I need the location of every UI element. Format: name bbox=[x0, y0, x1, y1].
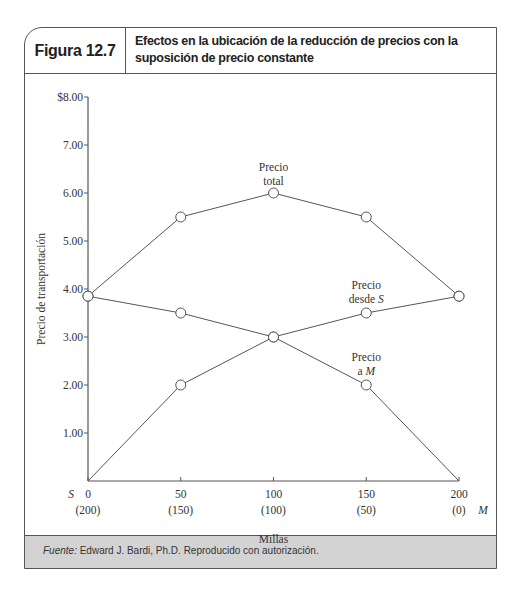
series-line bbox=[88, 296, 459, 481]
data-point-marker bbox=[361, 380, 371, 390]
data-point-marker bbox=[83, 291, 93, 301]
x-tick-sublabel: (200) bbox=[76, 504, 101, 517]
y-tick-label: 7.00 bbox=[63, 139, 83, 151]
series-label: Preciototal bbox=[259, 161, 289, 187]
x-tick-label: 50 bbox=[175, 488, 187, 500]
y-tick-label: 6.00 bbox=[63, 187, 83, 199]
data-point-marker bbox=[176, 308, 186, 318]
series-label-line: Precio bbox=[352, 279, 382, 291]
series-label: Preciodesde S bbox=[349, 279, 384, 305]
series-label-italic: S bbox=[378, 293, 384, 305]
y-axis-title: Precio de transportación bbox=[35, 233, 48, 345]
x-axis-title: Millas bbox=[259, 533, 289, 545]
data-point-marker bbox=[361, 212, 371, 222]
x-tick-sublabel: (150) bbox=[168, 504, 193, 517]
x-tick-label: 150 bbox=[358, 488, 376, 500]
data-point-marker bbox=[361, 308, 371, 318]
data-point-marker bbox=[454, 291, 464, 301]
chart: 1.002.003.004.005.006.007.00$8.000(200)5… bbox=[0, 0, 526, 598]
data-point-marker bbox=[269, 188, 279, 198]
series-label-line: total bbox=[263, 175, 283, 187]
x-tick-label: 0 bbox=[85, 488, 91, 500]
x-tick-label: 200 bbox=[450, 488, 468, 500]
series-label-line: desde S bbox=[349, 293, 384, 305]
data-point-marker bbox=[176, 212, 186, 222]
x-tick-label: 100 bbox=[265, 488, 283, 500]
x-tick-sublabel: (100) bbox=[261, 504, 286, 517]
series-label-italic: M bbox=[364, 365, 376, 377]
y-tick-label: 1.00 bbox=[63, 427, 83, 439]
series-line bbox=[88, 296, 459, 481]
y-tick-label: 3.00 bbox=[63, 331, 83, 343]
x-tick-sublabel: (0) bbox=[452, 504, 466, 517]
series-label-line: Precio bbox=[259, 161, 289, 173]
x-endpoint-label-m: M bbox=[477, 504, 489, 516]
y-tick-label: 5.00 bbox=[63, 235, 83, 247]
series-label-line: Precio bbox=[352, 351, 382, 363]
y-tick-label: $8.00 bbox=[57, 91, 83, 103]
y-tick-label: 2.00 bbox=[63, 379, 83, 391]
y-tick-label: 4.00 bbox=[63, 283, 83, 295]
data-point-marker bbox=[269, 332, 279, 342]
series-line bbox=[88, 193, 459, 296]
series-label: Precioa M bbox=[352, 351, 382, 377]
series-label-line: a M bbox=[357, 365, 376, 377]
x-endpoint-label-s: S bbox=[68, 488, 74, 500]
x-tick-sublabel: (50) bbox=[357, 504, 376, 517]
data-point-marker bbox=[176, 380, 186, 390]
